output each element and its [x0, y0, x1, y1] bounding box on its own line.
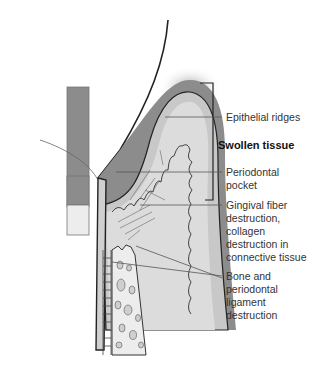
- label-bone-ligament-destruction: Bone and periodontal ligament destructio…: [226, 270, 278, 322]
- label-periodontal-pocket: Periodontal pocket: [226, 166, 279, 192]
- label-swollen-tissue: Swollen tissue: [218, 139, 294, 152]
- probe-scale-bar: [67, 87, 89, 235]
- label-epithelial-ridges: Epithelial ridges: [226, 111, 300, 124]
- tooth-root: [96, 178, 106, 350]
- label-gingival-fiber-destruction: Gingival fiber destruction, collagen des…: [226, 199, 307, 264]
